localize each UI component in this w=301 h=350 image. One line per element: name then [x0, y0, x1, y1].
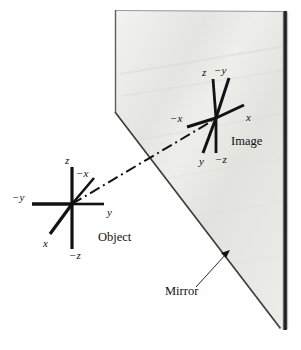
image-label-x: x	[245, 111, 251, 123]
figure-root: z −z y −y −x x Object z −z −y y x −x Ima…	[0, 0, 301, 350]
object-label-x: x	[42, 237, 48, 249]
object-axis-x	[50, 204, 72, 234]
mirror-callout: Mirror	[165, 250, 230, 298]
image-caption: Image	[231, 134, 263, 148]
image-label-y: y	[198, 155, 204, 167]
image-label-neg-y: −y	[214, 64, 226, 76]
object-axis-neg-x	[72, 178, 94, 204]
optics-diagram: z −z y −y −x x Object z −z −y y x −x Ima…	[0, 0, 301, 350]
image-label-z: z	[201, 66, 207, 78]
image-label-neg-z: −z	[215, 153, 227, 165]
object-label-z: z	[64, 154, 70, 166]
mirror-group	[115, 10, 288, 330]
object-caption: Object	[98, 230, 132, 244]
mirror-surface	[115, 10, 286, 329]
mirror-leader-line	[196, 254, 226, 287]
object-axis-labels: z −z y −y −x x	[12, 154, 112, 261]
object-label-neg-y: −y	[12, 191, 24, 203]
object-label-neg-x: −x	[76, 167, 88, 179]
mirror-caption: Mirror	[165, 284, 199, 298]
object-label-neg-z: −z	[69, 249, 81, 261]
object-label-y: y	[106, 206, 112, 218]
mirror-thickness-edge	[283, 11, 288, 330]
image-label-neg-x: −x	[170, 112, 182, 124]
